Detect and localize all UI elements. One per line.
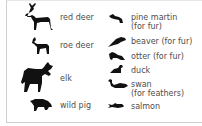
legend-label-salmon: salmon xyxy=(131,102,160,111)
legend-sublabel-swan: (for feathers) xyxy=(131,89,184,98)
duck-icon xyxy=(110,65,123,74)
legend-label-red-deer: red deer xyxy=(60,13,94,22)
roe-deer-icon xyxy=(31,37,51,55)
beaver-icon xyxy=(108,37,126,47)
legend-label-duck: duck xyxy=(131,66,150,75)
legend-sublabel-pine-martin: (for fur) xyxy=(131,22,162,31)
elk-icon xyxy=(18,62,54,94)
legend-label-swan: swan xyxy=(131,80,152,89)
legend-label-roe-deer: roe deer xyxy=(60,41,94,50)
salmon-icon xyxy=(108,103,124,109)
legend-label-beaver: beaver (for fur) xyxy=(131,37,192,46)
pine-martin-icon xyxy=(109,14,123,24)
wild-pig-icon xyxy=(30,98,52,112)
swan-icon xyxy=(108,77,128,89)
red-deer-icon xyxy=(22,3,54,31)
legend-label-wild-pig: wild pig xyxy=(60,101,91,110)
otter-icon xyxy=(109,52,125,61)
legend-label-pine-martin: pine martin xyxy=(131,13,177,22)
legend-label-elk: elk xyxy=(60,74,72,83)
legend-label-otter: otter (for fur) xyxy=(131,52,184,61)
